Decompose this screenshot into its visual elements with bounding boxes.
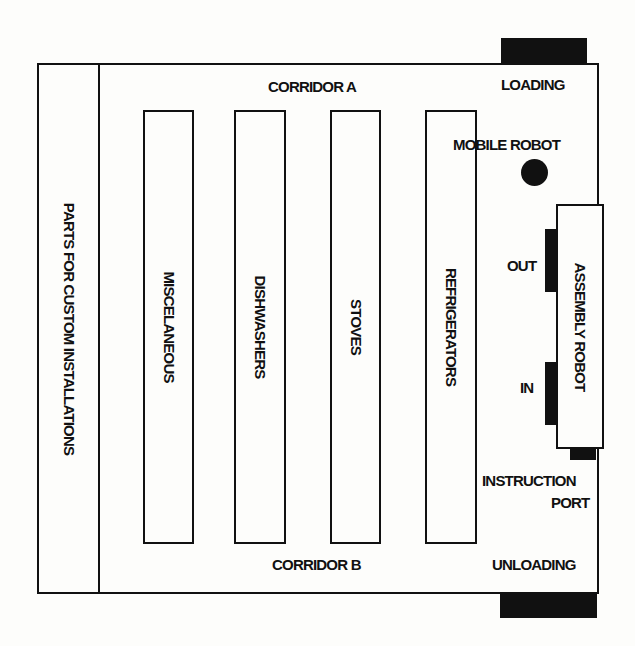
aisle-refrigerators: REFRIGERATORS xyxy=(425,110,477,544)
in-port-label: IN xyxy=(520,379,533,396)
assembly-robot-label: ASSEMBLY ROBOT xyxy=(572,262,589,391)
mobile-robot-label: MOBILE ROBOT xyxy=(453,136,560,153)
aisle-miscellaneous: MISCELANEOUS xyxy=(143,110,194,544)
assembly-robot-box: ASSEMBLY ROBOT xyxy=(556,204,604,449)
aisle-label: DISHWASHERS xyxy=(252,276,269,379)
custom-parts-label: PARTS FOR CUSTOM INSTALLATIONS xyxy=(60,202,77,454)
custom-parts-area: PARTS FOR CUSTOM INSTALLATIONS xyxy=(39,65,98,592)
aisle-dishwashers: DISHWASHERS xyxy=(234,110,286,544)
instruction-port-label-line2: PORT xyxy=(551,494,589,511)
instruction-port-label-line1: INSTRUCTION xyxy=(482,472,576,489)
mobile-robot-icon xyxy=(521,159,548,186)
loading-dock-bar xyxy=(501,38,587,65)
instruction-port-bar xyxy=(570,447,596,460)
aisle-label: REFRIGERATORS xyxy=(443,268,460,386)
custom-parts-divider xyxy=(98,63,100,594)
corridor-a-label: CORRIDOR A xyxy=(268,78,356,95)
unloading-label: UNLOADING xyxy=(492,556,576,573)
loading-label: LOADING xyxy=(501,76,565,93)
aisle-label: MISCELANEOUS xyxy=(160,271,177,382)
aisle-stoves: STOVES xyxy=(330,110,381,544)
corridor-b-label: CORRIDOR B xyxy=(272,556,361,573)
unloading-dock-bar xyxy=(500,592,597,618)
aisle-label: STOVES xyxy=(347,299,364,355)
out-port-label: OUT xyxy=(507,257,536,274)
